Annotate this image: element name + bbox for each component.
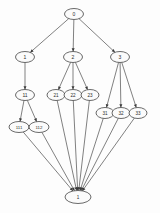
graph-diagram: 0123112122233132331111121 bbox=[0, 0, 160, 213]
graph-edge bbox=[23, 132, 73, 191]
graph-edge bbox=[73, 100, 79, 190]
graph-edge bbox=[82, 118, 134, 191]
graph-edge bbox=[72, 19, 75, 51]
node-label: 1 bbox=[77, 195, 80, 200]
edge-line bbox=[79, 19, 115, 53]
graph-node-11[interactable]: 11 bbox=[16, 90, 35, 101]
graph-node-111[interactable]: 111 bbox=[9, 122, 29, 133]
node-label: 111 bbox=[16, 125, 23, 130]
edge-line bbox=[42, 132, 75, 190]
edge-line bbox=[75, 62, 87, 89]
graph-edge bbox=[75, 62, 87, 89]
node-label: 11 bbox=[22, 92, 27, 98]
graph-node-1[interactable]: 1 bbox=[16, 52, 35, 63]
graph-edge bbox=[106, 62, 119, 107]
edge-line bbox=[23, 132, 73, 191]
edge-arrowhead-icon bbox=[72, 86, 75, 89]
edge-line bbox=[58, 62, 70, 89]
graph-edge bbox=[42, 132, 75, 190]
graph-edge bbox=[57, 100, 77, 190]
graph-node-31[interactable]: 31 bbox=[96, 108, 114, 119]
graph-node-0[interactable]: 0 bbox=[65, 9, 84, 20]
graph-node-33[interactable]: 33 bbox=[129, 108, 147, 119]
graph-node-21[interactable]: 21 bbox=[47, 90, 65, 101]
graph-node-112[interactable]: 112 bbox=[29, 122, 49, 133]
graph-edge bbox=[30, 19, 69, 53]
edge-line bbox=[20, 100, 24, 121]
graph-edge bbox=[19, 100, 24, 121]
edges-layer bbox=[19, 19, 137, 191]
edge-line bbox=[27, 100, 36, 121]
graph-edge bbox=[27, 100, 36, 121]
node-label: 3 bbox=[119, 54, 122, 60]
node-label: 31 bbox=[102, 111, 108, 116]
node-label: 32 bbox=[118, 111, 124, 116]
graph-node-23[interactable]: 23 bbox=[81, 90, 99, 101]
edge-arrowhead-icon bbox=[134, 104, 137, 108]
edge-line bbox=[73, 19, 74, 51]
edge-line bbox=[82, 118, 134, 191]
edge-line bbox=[122, 62, 137, 107]
graph-edge bbox=[79, 19, 115, 53]
edge-arrowhead-icon bbox=[19, 118, 22, 121]
node-label: 112 bbox=[36, 125, 44, 130]
edge-line bbox=[30, 19, 69, 53]
graph-edge bbox=[58, 62, 70, 89]
edge-arrowhead-icon bbox=[119, 104, 122, 107]
graph-node-1[interactable]: 1 bbox=[65, 191, 91, 204]
graph-edge bbox=[122, 62, 137, 107]
edge-arrowhead-icon bbox=[72, 48, 75, 51]
node-label: 22 bbox=[70, 93, 76, 98]
node-label: 23 bbox=[87, 93, 93, 98]
graph-node-2[interactable]: 2 bbox=[64, 52, 83, 63]
node-label: 33 bbox=[135, 111, 141, 116]
node-label: 21 bbox=[53, 93, 59, 98]
graph-node-32[interactable]: 32 bbox=[112, 108, 130, 119]
graph-edge bbox=[78, 100, 90, 190]
edge-arrowhead-icon bbox=[24, 86, 27, 89]
graph-canvas: 0123112122233132331111121 bbox=[0, 0, 160, 213]
graph-edge bbox=[72, 63, 75, 90]
node-label: 2 bbox=[72, 54, 75, 60]
edge-line bbox=[106, 62, 118, 107]
graph-node-3[interactable]: 3 bbox=[111, 52, 130, 63]
node-label: 0 bbox=[73, 11, 76, 17]
edge-line bbox=[120, 62, 121, 107]
graph-edge bbox=[119, 62, 122, 107]
graph-edge bbox=[24, 63, 27, 90]
graph-node-22[interactable]: 22 bbox=[64, 90, 82, 101]
node-label: 1 bbox=[24, 54, 27, 60]
